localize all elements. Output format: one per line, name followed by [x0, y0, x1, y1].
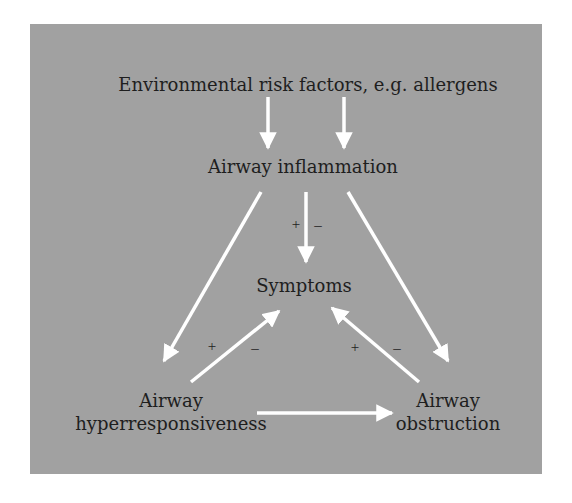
- arrow-hyperresponsiveness-to-symptoms: [191, 311, 279, 382]
- node-environmental-risk-factors: Environmental risk factors, e.g. allerge…: [118, 74, 497, 96]
- node-symptoms: Symptoms: [256, 275, 351, 297]
- right-plus-sign: +: [351, 339, 359, 355]
- node-airway-inflammation: Airway inflammation: [208, 156, 398, 178]
- center-plus-sign: +: [292, 216, 300, 232]
- right-minus-sign: –: [393, 340, 401, 356]
- left-minus-sign: –: [251, 340, 259, 356]
- node-obstruction-line2: obstruction: [396, 413, 501, 435]
- arrow-obstruction-to-symptoms: [332, 308, 419, 382]
- left-plus-sign: +: [208, 338, 216, 354]
- node-obstruction-line1: Airway: [416, 390, 480, 412]
- node-hyperresponsiveness-line2: hyperresponsiveness: [75, 413, 267, 435]
- node-hyperresponsiveness-line1: Airway: [139, 390, 203, 412]
- center-minus-sign: –: [314, 217, 322, 233]
